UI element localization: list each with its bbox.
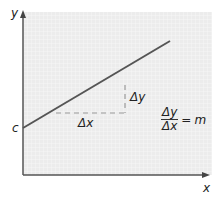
formula-result: m: [194, 113, 206, 127]
intercept-label: c: [12, 122, 19, 134]
delta-y-label: Δy: [130, 91, 145, 103]
fraction: Δy Δx: [161, 106, 178, 133]
slope-formula: Δy Δx = m: [161, 106, 206, 133]
diagram-canvas: [0, 0, 221, 199]
formula-numerator: Δy: [161, 106, 178, 119]
formula-denominator: Δx: [161, 120, 178, 133]
x-axis-label: x: [203, 182, 210, 194]
grid-background: [23, 12, 212, 175]
formula-equals: =: [181, 113, 191, 127]
delta-x-label: Δx: [78, 117, 93, 129]
slope-diagram: y x c Δx Δy Δy Δx = m: [0, 0, 221, 199]
y-axis-label: y: [11, 7, 18, 19]
